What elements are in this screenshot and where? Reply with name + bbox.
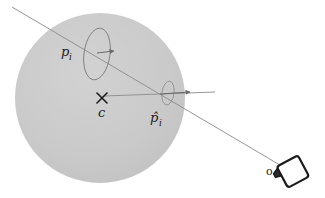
label-origin-o: o (266, 165, 273, 178)
shape-sphere (15, 13, 185, 183)
label-center-c: c (98, 105, 106, 120)
label-pi-subscript: i (69, 52, 72, 62)
label-pihat-subscript: i (159, 118, 162, 128)
label-pihat-base: p̂ (150, 110, 159, 125)
diagram-canvas: c p i p̂ i o (0, 0, 325, 198)
geometry-diagram: c p i p̂ i o (0, 0, 325, 198)
